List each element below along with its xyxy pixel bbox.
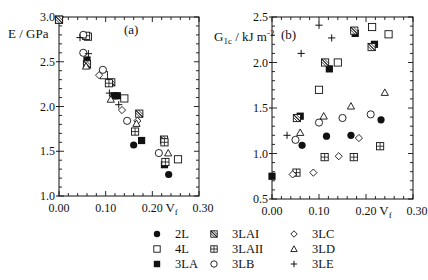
hatched-square-marker bbox=[211, 231, 217, 237]
legend-item-3LD: 3LD bbox=[291, 242, 335, 256]
y-tick-label: 2.5 bbox=[253, 10, 268, 24]
filled-circle-marker bbox=[154, 231, 160, 237]
crossed-square-marker bbox=[161, 139, 168, 146]
plus-marker bbox=[283, 132, 290, 139]
filled-square-marker bbox=[154, 261, 160, 267]
legend-label: 3LC bbox=[312, 227, 334, 241]
x-tick-label: 0.10 bbox=[95, 201, 116, 215]
filled-square-marker bbox=[268, 173, 275, 180]
plus-marker bbox=[315, 22, 322, 29]
hatched-square-marker bbox=[55, 16, 62, 23]
legend-label: 3LAII bbox=[232, 242, 263, 256]
x-tick-label: 0.00 bbox=[262, 204, 283, 218]
legend-item-4L: 4L bbox=[154, 242, 189, 256]
legend-label: 2L bbox=[175, 227, 189, 241]
open-circle-marker bbox=[124, 117, 131, 124]
legend-item-3LAI: 3LAI bbox=[211, 227, 259, 241]
legend-label: 4L bbox=[175, 242, 189, 256]
legend-item-3LB: 3LB bbox=[211, 257, 254, 271]
open-circle-marker bbox=[339, 114, 346, 121]
hatched-square-marker bbox=[351, 27, 358, 34]
crossed-square-marker bbox=[211, 246, 217, 252]
open-triangle-marker bbox=[165, 149, 172, 155]
x-tick-label: 0.30 bbox=[407, 204, 428, 218]
open-triangle-marker bbox=[381, 89, 388, 95]
open-square-marker bbox=[174, 156, 181, 163]
filled-circle-marker bbox=[165, 171, 172, 178]
legend-label: 3LB bbox=[232, 257, 254, 271]
open-square-marker bbox=[315, 86, 322, 93]
open-diamond-marker bbox=[335, 153, 342, 160]
open-triangle-marker bbox=[297, 129, 304, 135]
filled-circle-marker bbox=[298, 142, 305, 149]
crossed-square-marker bbox=[105, 80, 112, 87]
filled-square-marker bbox=[138, 137, 145, 144]
legend-item-3LAII: 3LAII bbox=[211, 242, 263, 256]
series-3LA bbox=[55, 16, 168, 168]
plot-frame bbox=[59, 17, 199, 196]
hatched-square-marker bbox=[136, 110, 143, 117]
filled-circle-marker bbox=[323, 133, 330, 140]
y-tick-label: 1.5 bbox=[253, 101, 268, 115]
filled-circle-marker bbox=[347, 132, 354, 139]
x-tick-label: 0.00 bbox=[49, 201, 70, 215]
series-3LD bbox=[82, 63, 171, 156]
open-square-marker bbox=[334, 59, 341, 66]
hatched-square-marker bbox=[293, 114, 300, 121]
legend-item-3LC: 3LC bbox=[291, 227, 334, 241]
legend-item-3LE: 3LE bbox=[291, 257, 334, 271]
x-tick-label: 0.20 bbox=[142, 201, 163, 215]
open-circle-marker bbox=[315, 119, 322, 126]
crossed-square-marker bbox=[321, 154, 328, 161]
y-tick-label: 1.5 bbox=[40, 144, 55, 158]
legend-label: 3LD bbox=[312, 242, 335, 256]
open-square-marker bbox=[121, 95, 128, 102]
legend-label: 3LAI bbox=[232, 227, 259, 241]
y-tick-label: 2.0 bbox=[253, 56, 268, 70]
crossed-square-marker bbox=[350, 154, 357, 161]
open-circle-marker bbox=[155, 149, 162, 156]
crossed-square-marker bbox=[162, 158, 169, 165]
filled-circle-marker bbox=[377, 116, 384, 123]
hatched-square-marker bbox=[368, 43, 375, 50]
legend-item-3LA: 3LA bbox=[154, 257, 198, 271]
open-triangle-marker bbox=[320, 113, 327, 119]
panel-b-plot: 0.51.01.52.02.50.000.100.200.30Vf(b)G1c … bbox=[214, 10, 428, 220]
legend-label: 3LA bbox=[175, 257, 198, 271]
open-diamond-marker bbox=[291, 231, 297, 237]
open-diamond-marker bbox=[118, 106, 125, 113]
open-diamond-marker bbox=[355, 134, 362, 141]
y-tick-label: 2.0 bbox=[40, 100, 55, 114]
open-circle-marker bbox=[367, 111, 374, 118]
open-circle-marker bbox=[211, 261, 217, 267]
crossed-square-marker bbox=[131, 128, 138, 135]
y-tick-label: 3.0 bbox=[40, 10, 55, 24]
y-tick-label: 1.0 bbox=[253, 147, 268, 161]
open-square-marker bbox=[369, 23, 376, 30]
legend-item-2L: 2L bbox=[154, 227, 189, 241]
panel-a-plot: 1.01.52.02.53.00.000.100.200.30Vf(a)E / … bbox=[8, 10, 214, 217]
series-3LD bbox=[297, 89, 389, 136]
open-square-marker bbox=[154, 246, 160, 252]
y-tick-label: 2.5 bbox=[40, 55, 55, 69]
panel-label: (a) bbox=[124, 22, 138, 37]
panel-label: (b) bbox=[281, 27, 296, 42]
y-axis-label: G1c / kJ m-2 bbox=[214, 28, 274, 46]
x-tick-label: 0.20 bbox=[356, 204, 377, 218]
x-axis-label: Vf bbox=[165, 200, 177, 217]
open-triangle-marker bbox=[347, 103, 354, 109]
open-triangle-marker bbox=[291, 246, 297, 252]
plus-marker bbox=[328, 34, 335, 41]
plus-marker bbox=[291, 261, 297, 267]
x-axis-label: Vf bbox=[379, 203, 391, 220]
plus-marker bbox=[298, 50, 305, 57]
open-diamond-marker bbox=[310, 169, 317, 176]
series-3LB bbox=[80, 31, 163, 156]
x-tick-label: 0.30 bbox=[193, 201, 214, 215]
open-circle-marker bbox=[80, 49, 87, 56]
open-square-marker bbox=[385, 31, 392, 38]
open-circle-marker bbox=[292, 136, 299, 143]
filled-circle-marker bbox=[130, 141, 137, 148]
y-axis-label: E / GPa bbox=[8, 26, 49, 41]
x-tick-label: 0.10 bbox=[309, 204, 330, 218]
